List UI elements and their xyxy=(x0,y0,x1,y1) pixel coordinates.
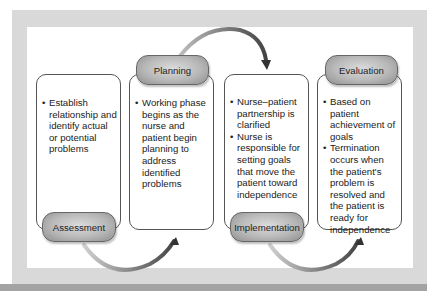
phase-box-planning: Working phase begins as the nurse and pa… xyxy=(129,74,214,230)
planning-bullet: Working phase begins as the nurse and pa… xyxy=(135,97,210,190)
arrow-implementation-to-evaluation xyxy=(270,241,358,270)
assessment-bullet: Establish relationship and identify actu… xyxy=(42,97,117,155)
phase-box-implementation: Nurse–patient partnership is clarified N… xyxy=(224,74,309,230)
phase-label-evaluation: Evaluation xyxy=(325,55,398,85)
phase-box-evaluation: Based on patient achievement of goals Te… xyxy=(317,74,402,230)
arrowhead-icon xyxy=(261,60,271,70)
evaluation-bullet: Termination occurs when the patient's pr… xyxy=(323,142,398,235)
arrow-assessment-to-planning xyxy=(84,241,174,270)
phase-label-planning: Planning xyxy=(136,55,209,85)
evaluation-bullet: Based on patient achievement of goals xyxy=(323,96,398,142)
phase-label-assessment: Assessment xyxy=(42,212,116,242)
arrowhead-icon xyxy=(170,237,179,245)
phase-box-assessment: Establish relationship and identify actu… xyxy=(36,74,121,230)
implementation-bullet: Nurse is responsible for setting goals t… xyxy=(230,131,305,201)
implementation-bullet: Nurse–patient partnership is clarified xyxy=(230,96,305,131)
phase-label-implementation: Implementation xyxy=(230,212,304,242)
